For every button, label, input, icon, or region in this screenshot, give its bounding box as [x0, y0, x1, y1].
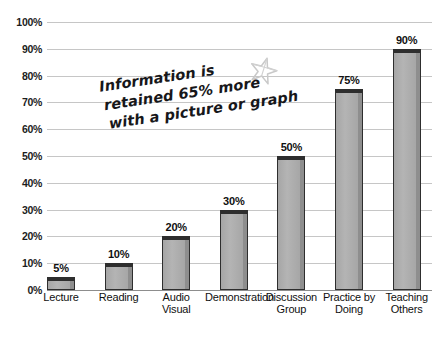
bar-value-label: 75% [338, 74, 359, 86]
y-axis-tick-label: 10% [0, 257, 42, 269]
bar [105, 263, 133, 290]
y-axis: 100%90%80%70%60%50%40%30%20%10%0% [0, 0, 42, 338]
x-axis-tick-label-line: Lecture [32, 292, 90, 304]
y-axis-tick-label: 70% [0, 96, 42, 108]
bar-value-label: 30% [223, 195, 244, 207]
bar [162, 236, 190, 290]
x-axis-tick-label: Audio Visual [147, 292, 205, 315]
x-axis-tick-label-line: Others [378, 304, 436, 316]
y-axis-tick-label: 50% [0, 150, 42, 162]
bar-group: 20% [162, 22, 190, 290]
bar-value-label: 50% [281, 141, 302, 153]
x-axis-tick-label-line: Reading [90, 292, 148, 304]
bar [335, 89, 363, 290]
x-axis-tick-label-line: Audio Visual [147, 292, 205, 315]
bar [220, 210, 248, 290]
y-axis-tick-label: 40% [0, 177, 42, 189]
bar-group: 90% [393, 22, 421, 290]
y-axis-tick-label: 90% [0, 43, 42, 55]
y-axis-tick-label: 30% [0, 204, 42, 216]
x-axis-tick-label: DiscussionGroup [263, 292, 321, 315]
y-axis-tick-label: 20% [0, 230, 42, 242]
x-axis-tick-label-line: Practice by [320, 292, 378, 304]
x-axis-tick-label: Reading [90, 292, 148, 304]
y-axis-tick-label: 60% [0, 123, 42, 135]
plot-area: 5%10%20%30%50%75%90% [47, 22, 432, 290]
bar-value-label: 5% [53, 262, 69, 274]
y-axis-tick-label: 80% [0, 70, 42, 82]
bar [393, 49, 421, 290]
x-axis-tick-label: Lecture [32, 292, 90, 304]
bar [47, 277, 75, 290]
x-axis-tick-label-line: Group [263, 304, 321, 316]
bar-value-label: 90% [396, 34, 417, 46]
bar-value-label: 10% [108, 248, 129, 260]
x-axis-tick-label: Demonstration [205, 292, 263, 304]
bar-group: 30% [220, 22, 248, 290]
bar-value-label: 20% [165, 221, 186, 233]
bar-group: 5% [47, 22, 75, 290]
retention-bar-chart: 5%10%20%30%50%75%90% 100%90%80%70%60%50%… [0, 0, 440, 338]
bar-group: 75% [335, 22, 363, 290]
y-axis-tick-label: 100% [0, 16, 42, 28]
x-axis-tick-label-line: Doing [320, 304, 378, 316]
x-axis-tick-label: TeachingOthers [378, 292, 436, 315]
x-axis-tick-label: Practice byDoing [320, 292, 378, 315]
x-axis-tick-label-line: Teaching [378, 292, 436, 304]
bar-group: 10% [105, 22, 133, 290]
x-axis-tick-label-line: Demonstration [205, 292, 263, 304]
bar [277, 156, 305, 290]
x-axis-tick-label-line: Discussion [263, 292, 321, 304]
